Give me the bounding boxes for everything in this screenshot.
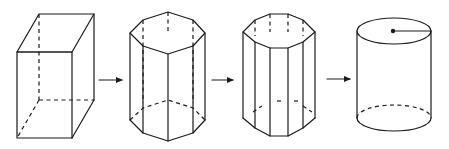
- cylinder: [357, 18, 431, 131]
- octagonal-prism: [130, 12, 205, 141]
- rectangular-prism: [17, 14, 94, 138]
- decagonal-prism: [243, 14, 315, 136]
- prism-to-cylinder-diagram: Progression of prisms approaching a cyli…: [0, 0, 449, 149]
